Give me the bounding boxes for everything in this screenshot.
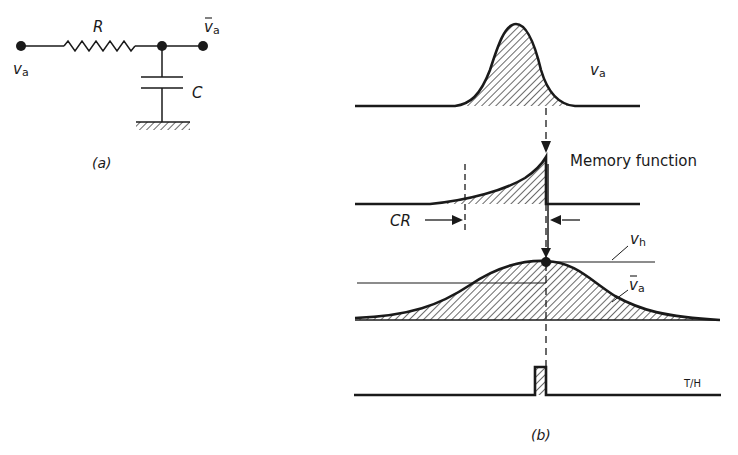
svg-text:va: va <box>629 276 645 295</box>
input-pulse-label: va <box>590 61 606 80</box>
caption-b: (b) <box>531 427 551 443</box>
caption-a: (a) <box>92 155 112 171</box>
input-voltage-label: va <box>13 60 29 79</box>
memory-function-label: Memory function <box>570 152 697 170</box>
output-voltage-label: va <box>204 18 220 37</box>
rc-circuit <box>16 41 208 130</box>
resistor-label: R <box>93 18 103 36</box>
track-hold-label: T/H <box>683 378 701 389</box>
smoothed-voltage-label: va <box>629 276 645 295</box>
ground-icon <box>136 122 190 130</box>
resistor-icon <box>64 41 135 51</box>
output-terminal <box>198 41 208 51</box>
arrow-down-icon-2 <box>541 248 551 258</box>
arrow-left-icon <box>550 215 561 225</box>
arrow-right-icon <box>452 215 463 225</box>
capacitor-label: C <box>192 84 203 102</box>
diagram-canvas: R C va va (a) va Memory function CR <box>0 0 738 455</box>
cr-label: CR <box>390 212 411 230</box>
svg-text:va: va <box>204 18 220 37</box>
arrow-down-icon <box>541 141 551 153</box>
track-hold-trace <box>354 367 721 395</box>
smoothed-output-trace <box>355 261 720 320</box>
hold-voltage-label: vh <box>630 230 646 249</box>
